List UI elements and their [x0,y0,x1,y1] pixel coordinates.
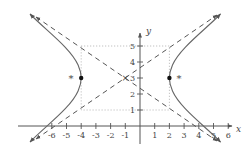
y-tick-label: 3 [130,74,135,83]
x-tick-labels: -6 -5 -4 -3 -2 -1 1 2 3 4 5 6 [48,131,231,140]
y-axis-label: y [145,26,152,36]
x-tick-label: -4 [77,131,85,140]
x-tick-label: -3 [92,131,100,140]
y-tick-label: 5 [130,42,135,51]
y-tick-label: 1 [130,106,135,115]
x-tick-label: -2 [107,131,115,140]
focus-right-marker: * [177,73,182,84]
y-tick-label: 4 [130,58,135,67]
hyperbola-figure: -6 -5 -4 -3 -2 -1 1 2 3 4 5 6 1 2 3 4 5 … [0,0,249,150]
x-tick-label: -5 [63,131,71,140]
vertex-right [167,76,171,80]
vertex-left [79,76,83,80]
graph-svg: -6 -5 -4 -3 -2 -1 1 2 3 4 5 6 1 2 3 4 5 … [0,0,249,150]
x-axis-label: x [236,124,241,134]
x-tick-label: 2 [167,131,172,140]
focus-left-marker: * [69,73,74,84]
hyperbola-left-branch [30,14,81,142]
x-tick-label: -1 [121,131,129,140]
y-tick-labels: 1 2 3 4 5 [130,42,135,115]
x-tick-label: 1 [152,131,157,140]
x-tick-label: 6 [226,131,231,140]
x-tick-label: 3 [182,131,187,140]
center-marker: × [122,73,130,83]
x-tick-label: 4 [196,131,201,140]
y-tick-label: 2 [130,90,135,99]
x-tick-label: -6 [48,131,56,140]
